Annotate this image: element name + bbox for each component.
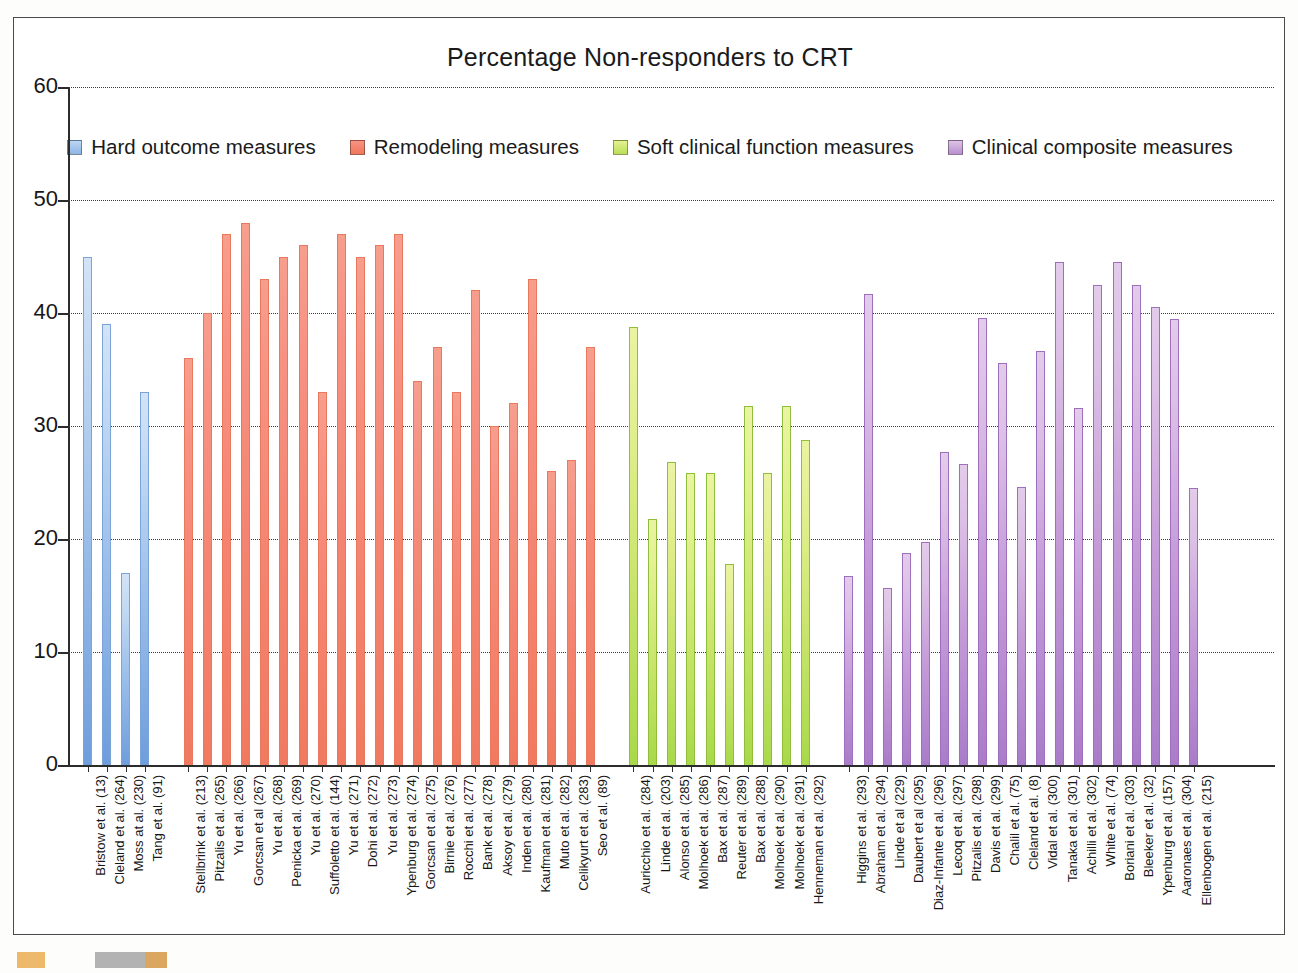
x-axis-tick (767, 765, 768, 772)
plot-area (69, 87, 1274, 765)
x-axis-tick-label: Alonso et al. (285) (677, 775, 692, 880)
x-axis-tick (1002, 765, 1003, 772)
bar[interactable] (667, 462, 676, 765)
bar[interactable] (801, 440, 810, 765)
bar[interactable] (121, 573, 130, 765)
x-axis-tick (284, 765, 285, 772)
bar[interactable] (1093, 285, 1102, 765)
bar[interactable] (356, 257, 365, 766)
x-axis-tick-label: Stellbrink et al. (213) (193, 775, 208, 894)
y-axis-tick (58, 765, 69, 767)
y-axis-tick-label: 0 (18, 751, 58, 777)
bar[interactable] (706, 473, 715, 765)
bar[interactable] (222, 234, 231, 765)
bar[interactable] (1113, 262, 1122, 765)
x-axis-tick-label: Chalil et al. (75) (1007, 775, 1022, 866)
y-axis-tick (58, 87, 69, 89)
bar[interactable] (744, 406, 753, 765)
bar[interactable] (471, 290, 480, 765)
bar[interactable] (1132, 285, 1141, 765)
x-axis-tick (571, 765, 572, 772)
x-axis-tick-label: Penicka et al. (269) (289, 775, 304, 887)
bar[interactable] (452, 392, 461, 765)
bar[interactable] (1189, 488, 1198, 765)
bar[interactable] (978, 318, 987, 765)
x-axis-tick (787, 765, 788, 772)
bar[interactable] (725, 564, 734, 765)
bar[interactable] (1151, 307, 1160, 765)
bar[interactable] (299, 245, 308, 765)
x-axis-tick-label: Molhoek et al. (286) (696, 775, 711, 890)
bar[interactable] (203, 313, 212, 765)
bar[interactable] (763, 473, 772, 765)
bar[interactable] (394, 234, 403, 765)
x-axis-tick (1194, 765, 1195, 772)
bar[interactable] (413, 381, 422, 765)
x-axis-tick-label: Ypenburg et al. (157) (1160, 775, 1175, 896)
bar[interactable] (844, 576, 853, 765)
x-axis-tick-label: Dohi et al. (272) (365, 775, 380, 867)
x-axis-tick-label: Linde et al (229) (892, 775, 907, 869)
bar[interactable] (864, 294, 873, 765)
bar[interactable] (279, 257, 288, 766)
bar[interactable] (337, 234, 346, 765)
x-axis-tick-label: Yu et al. (270) (308, 775, 323, 856)
x-axis-tick (1079, 765, 1080, 772)
x-axis-tick-label: Vidal et al. (300) (1045, 775, 1060, 869)
bar[interactable] (921, 542, 930, 765)
x-axis-tick (729, 765, 730, 772)
bar[interactable] (586, 347, 595, 765)
bar[interactable] (184, 358, 193, 765)
bar[interactable] (1074, 408, 1083, 765)
bar[interactable] (1170, 319, 1179, 765)
gridline (69, 87, 1274, 88)
bar[interactable] (1017, 487, 1026, 765)
y-axis-tick (58, 313, 69, 315)
gridline (69, 200, 1274, 201)
bar[interactable] (318, 392, 327, 765)
bar[interactable] (490, 426, 499, 765)
bar[interactable] (782, 406, 791, 765)
x-axis-tick (590, 765, 591, 772)
bar[interactable] (998, 363, 1007, 765)
bar[interactable] (883, 588, 892, 765)
x-axis-tick (1060, 765, 1061, 772)
bar[interactable] (629, 327, 638, 765)
bar[interactable] (686, 473, 695, 765)
x-axis-tick-label: Yu et al. (266) (231, 775, 246, 856)
bar[interactable] (509, 403, 518, 765)
bar[interactable] (902, 553, 911, 765)
bar[interactable] (241, 223, 250, 765)
bar[interactable] (648, 519, 657, 765)
bar[interactable] (1036, 351, 1045, 765)
x-axis-tick-label: Yu et al. (268) (270, 775, 285, 856)
x-axis-tick (552, 765, 553, 772)
bar[interactable] (528, 279, 537, 765)
x-axis-tick (399, 765, 400, 772)
bar[interactable] (102, 324, 111, 765)
bar[interactable] (959, 464, 968, 765)
bar[interactable] (1055, 262, 1064, 765)
bar[interactable] (547, 471, 556, 765)
bar[interactable] (940, 452, 949, 765)
x-axis-tick-label: Celikyurt et al. (283) (576, 775, 591, 891)
y-axis-tick (58, 426, 69, 428)
bar[interactable] (260, 279, 269, 765)
bar[interactable] (567, 460, 576, 765)
x-axis-tick-label: Ellenbogen et al. (215) (1199, 775, 1214, 905)
bar[interactable] (433, 347, 442, 765)
x-axis-tick-label: Linde et al. (203) (658, 775, 673, 872)
x-axis-tick (207, 765, 208, 772)
x-axis-tick (360, 765, 361, 772)
bar[interactable] (83, 257, 92, 766)
x-axis-tick (145, 765, 146, 772)
x-axis-tick-label: Kaufman et al. (281) (538, 775, 553, 893)
x-axis-tick-label: White et al. (74) (1103, 775, 1118, 866)
bar[interactable] (375, 245, 384, 765)
x-axis-tick-label: Cleland et al. (264) (112, 775, 127, 884)
y-axis-tick (58, 652, 69, 654)
x-axis-tick (710, 765, 711, 772)
bar[interactable] (140, 392, 149, 765)
x-axis-tick (246, 765, 247, 772)
x-axis-tick (514, 765, 515, 772)
